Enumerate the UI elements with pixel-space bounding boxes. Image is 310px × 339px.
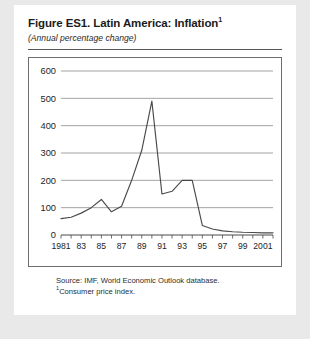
x-axis-tick-label: 1981 — [51, 241, 70, 251]
x-axis-tick-label: 89 — [137, 241, 147, 251]
figure-title: Figure ES1. Latin America: Inflation1 — [28, 17, 222, 29]
figure-subtitle: (Annual percentage change) — [28, 33, 136, 43]
x-axis-tick-label: 83 — [76, 241, 86, 251]
chart-plot-area: 0100200300400500600 19818385878991939597… — [28, 57, 282, 267]
x-axis-tick-label: 2001 — [253, 241, 272, 251]
inflation-line-chart: 0100200300400500600 19818385878991939597… — [28, 57, 282, 267]
title-divider — [28, 49, 282, 50]
x-axis-tick-label: 85 — [97, 241, 107, 251]
source-note: Source: IMF, World Economic Outlook data… — [56, 275, 220, 286]
footnote: 1Consumer price index. — [56, 286, 220, 297]
x-axis-tick-label: 99 — [238, 241, 248, 251]
y-axis-tick-label: 600 — [40, 66, 56, 76]
gridline-group — [61, 71, 273, 208]
x-axis-tick-label: 93 — [177, 241, 187, 251]
figure-card: Figure ES1. Latin America: Inflation1 (A… — [14, 5, 296, 315]
x-axis-tick-label: 91 — [157, 241, 167, 251]
x-axis-tick-label: 97 — [218, 241, 228, 251]
y-axis-tick-label-group: 0100200300400500600 — [40, 66, 56, 240]
x-axis-tick-mark-group — [61, 235, 273, 239]
figure-notes: Source: IMF, World Economic Outlook data… — [56, 275, 220, 297]
y-axis-tick-label: 200 — [40, 176, 56, 186]
y-axis-tick-label: 0 — [51, 230, 56, 240]
data-series-group — [61, 101, 273, 233]
x-axis-tick-label: 87 — [117, 241, 127, 251]
y-axis-tick-label: 500 — [40, 94, 56, 104]
x-axis-tick-label: 95 — [198, 241, 208, 251]
footnote-text: Consumer price index. — [59, 287, 135, 296]
figure-title-text: Figure ES1. Latin America: Inflation — [28, 17, 218, 29]
y-axis-tick-label: 300 — [40, 148, 56, 158]
inflation-series-line — [61, 101, 273, 233]
figure-title-footnote-marker: 1 — [218, 16, 222, 23]
y-axis-tick-label: 400 — [40, 121, 56, 131]
x-axis-tick-label-group: 19818385878991939597992001 — [51, 241, 272, 251]
y-axis-tick-label: 100 — [40, 203, 56, 213]
